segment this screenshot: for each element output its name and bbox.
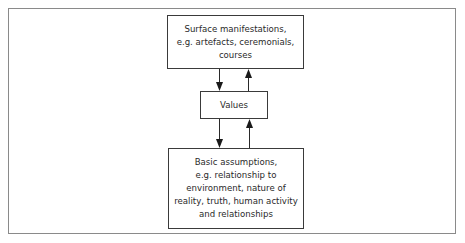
arrow-down-icon bbox=[216, 69, 223, 91]
arrow-up-icon bbox=[245, 69, 252, 91]
arrow-up-icon bbox=[246, 119, 253, 148]
connector-arrows bbox=[0, 0, 465, 243]
arrow-down-icon bbox=[216, 119, 223, 148]
